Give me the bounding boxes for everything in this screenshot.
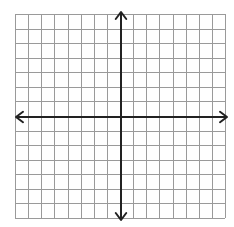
coordinate-plane [0, 0, 234, 227]
coordinate-grid-svg [0, 0, 234, 227]
